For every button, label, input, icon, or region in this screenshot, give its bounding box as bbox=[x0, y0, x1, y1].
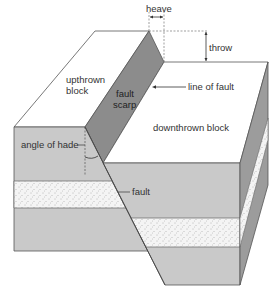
upthrown-sandstone-bed bbox=[14, 181, 126, 208]
line-of-fault-label: line of fault bbox=[188, 81, 234, 92]
upthrown-block-label-2: block bbox=[66, 85, 88, 96]
throw-arrow-head-top bbox=[205, 32, 208, 35]
upthrown-block-label-1: upthrown bbox=[66, 74, 105, 85]
fault-scarp-label-1: fault bbox=[116, 88, 134, 99]
throw-arrow-head-bottom bbox=[205, 58, 208, 61]
downthrown-block-label: downthrown block bbox=[153, 122, 229, 133]
fault-label: fault bbox=[132, 186, 150, 197]
heave-arrow-head-right bbox=[160, 16, 163, 19]
angle-of-hade-label: angle of hade bbox=[21, 139, 79, 150]
fault-diagram: heave throw upthrown block fault scarp l… bbox=[0, 0, 280, 291]
heave-label: heave bbox=[146, 3, 172, 14]
downthrown-sandstone-bed bbox=[131, 218, 240, 247]
throw-label: throw bbox=[209, 42, 232, 53]
heave-arrow-head-left bbox=[150, 16, 153, 19]
fault-scarp-label-2: scarp bbox=[113, 99, 136, 110]
